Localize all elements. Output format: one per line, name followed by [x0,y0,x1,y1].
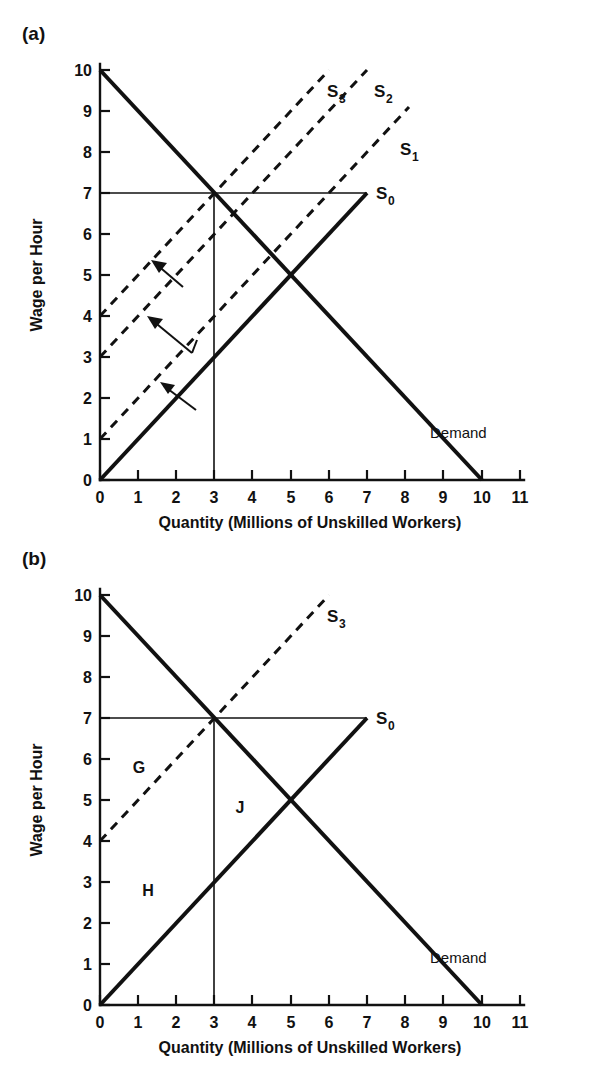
y-tick-label: 5 [83,792,92,809]
s3-label-base: S [327,82,338,101]
x-tick-label: 4 [248,489,257,506]
x-tick-label: 2 [172,489,181,506]
x-tick-label: 3 [210,489,219,506]
s1-label-base: S [400,140,411,159]
y-tick-label: 9 [83,628,92,645]
s0-label-base: S [376,709,387,728]
s1-label-sub: 1 [412,150,419,164]
region-label-j: J [236,799,245,816]
y-tick-label: 8 [83,144,92,161]
y-tick-label: 3 [83,349,92,366]
x-tick-label: 11 [512,489,529,506]
x-tick-label: 5 [287,1014,296,1031]
y-tick-label: 6 [83,751,92,768]
region-label-h: H [142,882,154,899]
x-tick-label: 9 [439,489,448,506]
s3-label-sub: 3 [339,617,346,631]
y-tick-label: 10 [74,62,92,79]
x-axis-title: Quantity (Millions of Unskilled Workers) [159,514,462,531]
y-tick-label: 1 [83,956,92,973]
y-tick-label: 7 [83,710,92,727]
y-tick-label: 4 [83,308,92,325]
y-axis-title: Wage per Hour [28,218,45,331]
x-tick-label: 7 [363,489,372,506]
x-tick-label: 3 [210,1014,219,1031]
x-tick-label: 4 [248,1014,257,1031]
x-axis-title: Quantity (Millions of Unskilled Workers) [159,1039,462,1056]
x-tick-label: 10 [473,1014,491,1031]
y-tick-label: 1 [83,431,92,448]
x-tick-label: 8 [401,489,410,506]
y-tick-label: 9 [83,103,92,120]
y-tick-label: 7 [83,185,92,202]
x-tick-label: 8 [401,1014,410,1031]
x-tick-label: 1 [134,489,143,506]
x-tick-label: 9 [439,1014,448,1031]
demand-label: Demand [430,424,487,441]
region-label-g: G [133,759,145,776]
y-tick-label: 10 [74,587,92,604]
x-tick-label: 0 [96,489,105,506]
x-tick-label: 7 [363,1014,372,1031]
s2-label-base: S [374,82,385,101]
y-tick-label: 2 [83,390,92,407]
y-tick-label: 6 [83,226,92,243]
s2-label-sub: 2 [386,92,393,106]
x-tick-label: 6 [325,489,334,506]
x-tick-label: 0 [96,1014,105,1031]
x-tick-label: 11 [512,1014,529,1031]
x-tick-label: 6 [325,1014,334,1031]
x-tick-label: 2 [172,1014,181,1031]
s0-label-sub: 0 [388,194,395,208]
panel-b-label: (b) [22,548,46,569]
y-tick-label: 2 [83,915,92,932]
x-tick-label: 5 [287,489,296,506]
s3-label-base: S [327,607,338,626]
x-tick-label: 1 [134,1014,143,1031]
s0-label-base: S [376,184,387,203]
s0-label-sub: 0 [388,719,395,733]
y-tick-label: 8 [83,669,92,686]
x-tick-label: 10 [473,489,491,506]
demand-label: Demand [430,949,487,966]
y-tick-label: 4 [83,833,92,850]
panel-a-label: (a) [22,23,45,44]
y-tick-label: 3 [83,874,92,891]
y-tick-label: 5 [83,267,92,284]
s3-label-sub: 3 [339,92,346,106]
y-tick-label: 0 [83,472,92,489]
economics-figure: (a) 0 1 2 3 4 5 [0,0,612,1089]
y-tick-label: 0 [83,997,92,1014]
y-axis-title: Wage per Hour [28,743,45,856]
